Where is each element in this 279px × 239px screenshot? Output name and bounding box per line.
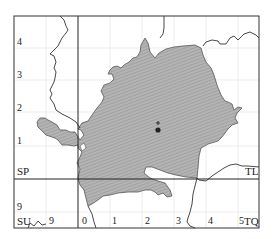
x-label-5: 5 bbox=[239, 216, 244, 226]
county-boundary-southwest bbox=[88, 206, 96, 228]
county-boundary-north bbox=[160, 16, 164, 38]
y-label-9: 9 bbox=[17, 202, 22, 212]
y-label-1: 1 bbox=[17, 136, 22, 146]
county-boundary bbox=[50, 16, 80, 128]
x-label-9: 9 bbox=[49, 216, 54, 226]
distribution-map bbox=[0, 0, 279, 239]
x-label-3: 3 bbox=[176, 216, 181, 226]
shaded-region bbox=[37, 38, 242, 206]
x-label-2: 2 bbox=[145, 216, 150, 226]
y-label-2: 2 bbox=[17, 103, 22, 113]
grid-square-sp: SP bbox=[17, 166, 29, 176]
x-label-1: 1 bbox=[112, 216, 117, 226]
y-label-4: 4 bbox=[17, 37, 22, 47]
x-label-4: 4 bbox=[208, 216, 213, 226]
county-boundary-south bbox=[187, 178, 197, 228]
y-label-3: 3 bbox=[17, 70, 22, 80]
county-boundary-east bbox=[203, 32, 259, 46]
grid-square-tl: TL bbox=[245, 166, 258, 176]
grid-square-tq: TQ bbox=[244, 216, 259, 226]
grid-square-su: SU bbox=[17, 216, 31, 226]
x-label-0: 0 bbox=[82, 216, 87, 226]
